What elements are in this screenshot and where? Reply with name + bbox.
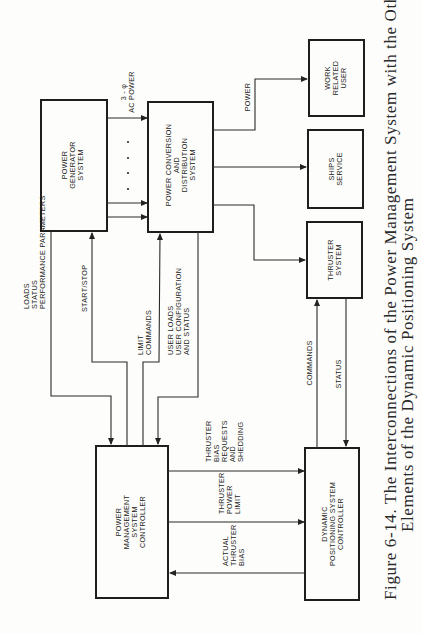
start-stop-connector: START/STOP xyxy=(80,233,127,446)
signal-label: COMMANDS xyxy=(144,310,153,355)
block-label: CONTROLLER xyxy=(336,498,345,550)
user-loads-connector: USER LOADS USER CONFIGURATION AND STATUS xyxy=(158,232,198,444)
signal-label: LIMIT xyxy=(233,494,242,514)
limit-commands-connector: LIMIT COMMANDS xyxy=(136,234,160,446)
work-related-user-block: WORK RELATED USER xyxy=(309,40,364,116)
block-label: SYSTEM xyxy=(76,149,85,180)
signal-label: PERFORMANCE PARAMETERS xyxy=(38,196,47,310)
figure-caption: Figure 6-14. The Interconnections of the… xyxy=(381,0,417,600)
signal-label: POWER xyxy=(243,83,252,112)
signal-label: SHEDDING xyxy=(236,422,245,462)
status-connector: STATUS xyxy=(334,298,346,446)
ellipsis-dot xyxy=(127,188,129,190)
block-label: SYSTEM xyxy=(334,244,343,275)
ac-power-connector: 3 - φ AC POWER xyxy=(107,71,147,217)
thruster-power-connector xyxy=(213,205,305,260)
thruster-system-block: THRUSTER SYSTEM xyxy=(307,222,362,298)
block-label: CONTROLLER xyxy=(138,496,147,548)
interconnection-diagram: POWER GENERATOR SYSTEM POWER CONVERSION … xyxy=(0,0,421,634)
power-connector: POWER xyxy=(213,79,307,130)
signal-label: AND STATUS xyxy=(182,308,191,355)
caption-line-2: Elements of the Dynamic Positioning Syst… xyxy=(398,198,417,532)
block-label: SERVICE xyxy=(335,152,344,186)
signal-label: BIAS xyxy=(237,548,246,566)
loads-status-connector: LOADS STATUS PERFORMANCE PARAMETERS xyxy=(22,196,111,445)
thruster-power-limit-connector: THRUSTER POWER LIMIT xyxy=(168,472,304,522)
ships-service-block: SHIPS SERVICE xyxy=(308,130,363,208)
block-label: SYSTEM xyxy=(188,149,197,180)
signal-label: AC POWER xyxy=(127,71,136,113)
commands-connector: COMMANDS xyxy=(305,300,317,448)
ellipsis-dot xyxy=(127,141,129,143)
signal-label: STATUS xyxy=(334,359,343,388)
signal-label: COMMANDS xyxy=(305,340,314,385)
power-management-system-controller-block: POWER MANAGEMENT SYSTEM CONTROLLER xyxy=(96,446,168,598)
actual-thruster-bias-connector: ACTUAL THRUSTER BIAS xyxy=(170,524,304,573)
thruster-bias-requests-connector: THRUSTER BIAS REQUESTS AND SHEDDING xyxy=(168,420,304,471)
block-label: USER xyxy=(339,67,348,88)
ellipsis-dot xyxy=(127,172,129,174)
dynamic-positioning-system-controller-block: DYNAMIC POSITIONING SYSTEM CONTROLLER xyxy=(305,448,359,600)
ellipsis-dot xyxy=(127,157,129,159)
power-generator-system-block: POWER GENERATOR SYSTEM xyxy=(41,100,107,231)
signal-label: START/STOP xyxy=(80,265,89,312)
power-conversion-distribution-block: POWER CONVERSION AND DISTRIBUTION SYSTEM xyxy=(148,102,213,232)
